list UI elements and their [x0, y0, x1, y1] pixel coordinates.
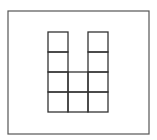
- grid-square: [88, 52, 108, 72]
- grid-square: [48, 92, 68, 112]
- grid-square: [88, 72, 108, 92]
- diagram-canvas: [0, 0, 157, 140]
- grid-square: [68, 92, 88, 112]
- grid-square: [68, 72, 88, 92]
- grid-square: [88, 92, 108, 112]
- grid-square: [88, 32, 108, 52]
- grid-square: [48, 52, 68, 72]
- grid-square: [48, 32, 68, 52]
- u-shape-grid: [48, 32, 108, 112]
- grid-square: [48, 72, 68, 92]
